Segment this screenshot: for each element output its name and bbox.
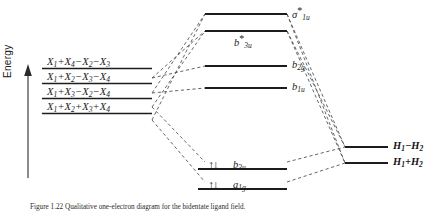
- mo-subscript: 3u: [238, 163, 246, 172]
- mo-energy-level-diagram: Energy X1+X4−X2−X3 X1+X2−X3−X4 X1+X3−X2−…: [0, 0, 432, 211]
- mo-label-b2g: b2g: [292, 60, 305, 71]
- mo-label-b1u: b1u: [292, 82, 305, 93]
- lgo-term-1: X1: [47, 56, 57, 67]
- lgo-label-2: X1+X3−X2−X4: [47, 87, 110, 98]
- lgo-term-2: +X2: [57, 71, 75, 82]
- lgo-term-3: −X3: [75, 71, 93, 82]
- mo-subscript: 3u: [244, 41, 252, 50]
- lgo-term-2: +X4: [57, 56, 75, 67]
- mo-subscript: 1u: [302, 13, 310, 22]
- fragment-label-h-plus: H1+H2: [393, 157, 423, 168]
- lgo-term-3: −X2: [75, 86, 93, 97]
- lgo-label-3: X1+X2−X3−X4: [47, 72, 110, 83]
- fragment-label-h-minus: H1−H2: [393, 141, 423, 152]
- lgo-term-2: +X3: [57, 86, 75, 97]
- lgo-label-1: X1+X2+X3+X4: [47, 102, 110, 113]
- electron-pair-b3u: ↑↓: [208, 158, 217, 171]
- lgo-term-1: X1: [47, 86, 57, 97]
- lgo-term-4: −X4: [93, 86, 111, 97]
- correlation-lines-right: [287, 14, 345, 182]
- lgo-term-3: +X3: [75, 101, 93, 112]
- level-bars-right: [345, 147, 388, 163]
- lgo-term-2: +X2: [57, 101, 75, 112]
- lgo-term-1: X1: [47, 71, 57, 82]
- correlation-lines-left: [152, 14, 205, 182]
- lgo-term-4: +X4: [93, 101, 111, 112]
- lgo-term-1: X1: [47, 101, 57, 112]
- mo-label-a1g: a1g: [233, 180, 246, 191]
- electron-pair-a1g: ↑↓: [208, 178, 217, 191]
- energy-axis-label: Energy: [2, 45, 13, 79]
- lgo-term-4: −X3: [93, 56, 111, 67]
- lgo-term-3: −X2: [75, 56, 93, 67]
- mo-label-b3u: b3u: [233, 160, 246, 171]
- mo-label-b3u-star: b*3u: [234, 34, 252, 50]
- lgo-term-4: −X4: [93, 71, 111, 82]
- energy-axis-arrow: [24, 64, 32, 178]
- figure-caption: Figure 1.22 Qualitative one-electron dia…: [30, 203, 430, 211]
- mo-subscript: 2g: [297, 63, 305, 72]
- mo-label-sigma1u-star: σ*1u: [292, 6, 310, 22]
- lgo-label-4: X1+X4−X2−X3: [47, 57, 110, 68]
- mo-subscript: 1g: [238, 183, 246, 192]
- mo-subscript: 1u: [297, 85, 305, 94]
